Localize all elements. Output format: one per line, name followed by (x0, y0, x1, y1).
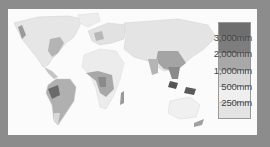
se-asia (168, 67, 180, 79)
europe (88, 23, 126, 45)
greenland (78, 13, 100, 27)
legend-label-1000: 1,000mm (214, 65, 252, 76)
legend-label-500: 500mm (221, 81, 252, 92)
central-america (44, 67, 58, 79)
madagascar (120, 91, 124, 105)
australia (168, 97, 200, 119)
legend-label-2000: 2,000mm (214, 48, 252, 59)
nz (194, 119, 204, 127)
legend-label-3000: 3,000mm (214, 32, 252, 43)
south-america (46, 79, 76, 125)
legend-label-250: 250mm (221, 97, 252, 108)
india (148, 59, 158, 75)
north-america (14, 16, 83, 67)
indonesia (168, 81, 178, 89)
na-east-wet (48, 37, 64, 57)
new-guinea (184, 87, 196, 95)
